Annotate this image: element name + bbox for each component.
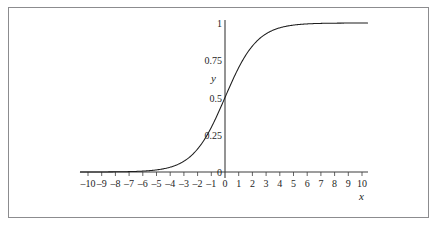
x-tick-label: 4	[277, 178, 282, 189]
x-tick-label: –3	[179, 178, 189, 189]
plot-canvas	[0, 0, 438, 226]
x-tick-label: 2	[250, 178, 255, 189]
x-tick-label: –5	[152, 178, 162, 189]
y-tick-label: 0.75	[205, 55, 223, 66]
x-tick-label: 7	[318, 178, 323, 189]
x-tick-label: 0	[223, 178, 228, 189]
x-tick-label: –6	[138, 178, 148, 189]
x-tick-label: –2	[193, 178, 203, 189]
x-tick-label: 5	[291, 178, 296, 189]
y-tick-label: 0.5	[210, 92, 223, 103]
x-tick-label: 1	[236, 178, 241, 189]
x-tick-label: –9	[97, 178, 107, 189]
x-tick-label: 9	[346, 178, 351, 189]
x-tick-label: 10	[357, 178, 367, 189]
x-tick-label: 8	[332, 178, 337, 189]
y-tick-label: 1	[217, 18, 222, 29]
x-axis-label: x	[359, 190, 364, 202]
x-tick-label: –8	[110, 178, 120, 189]
x-tick-label: 3	[264, 178, 269, 189]
x-tick-label: –7	[124, 178, 134, 189]
x-tick-label: –1	[206, 178, 216, 189]
y-tick-label: 0.25	[205, 129, 223, 140]
logistic-curve	[80, 23, 367, 172]
y-axis-label: y	[211, 72, 216, 84]
x-tick-label: –10	[81, 178, 96, 189]
x-tick-label: –4	[165, 178, 175, 189]
y-tick-label: 0	[217, 167, 222, 178]
x-tick-label: 6	[305, 178, 310, 189]
chart-figure: x y –10–9–8–7–6–5–4–3–2–1012345678910 00…	[0, 0, 438, 226]
